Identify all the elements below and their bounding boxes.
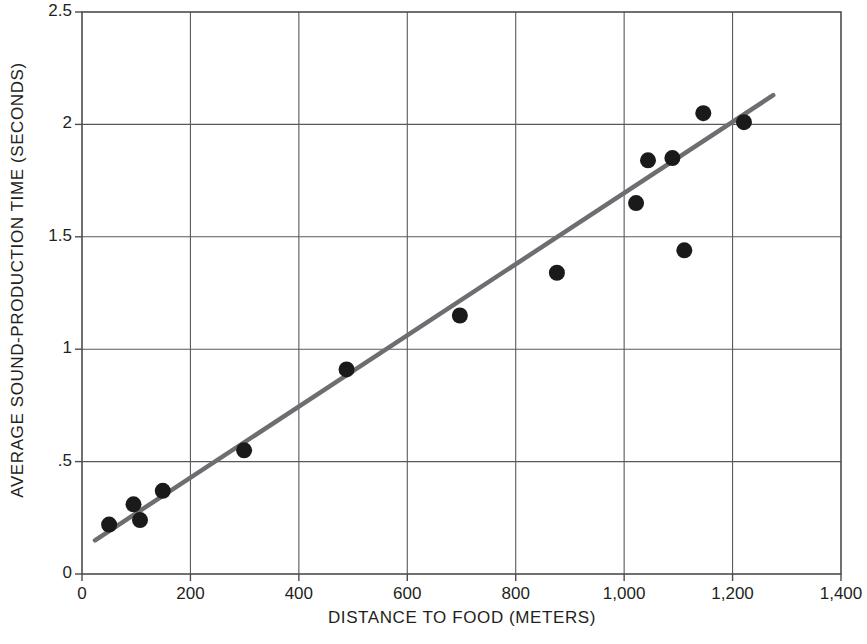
x-tick-label: 200 [150, 584, 230, 604]
data-point [236, 442, 252, 458]
data-point [452, 307, 468, 323]
plot-frame [82, 12, 841, 574]
data-point [676, 242, 692, 258]
data-point [695, 105, 711, 121]
data-point [101, 517, 117, 533]
x-tick-label: 0 [42, 584, 122, 604]
y-tick-label: 2.5 [14, 1, 72, 21]
x-tick-label: 1,000 [584, 584, 664, 604]
x-tick-label: 800 [476, 584, 556, 604]
y-tick-label: 1.5 [14, 226, 72, 246]
y-tick-label: 1 [14, 338, 72, 358]
data-point [339, 361, 355, 377]
data-point [736, 114, 752, 130]
x-tick-label: 1,400 [801, 584, 867, 604]
data-point [126, 496, 142, 512]
y-tick-label: 0 [14, 563, 72, 583]
data-points [101, 105, 752, 532]
x-tick-label: 400 [259, 584, 339, 604]
y-tick-label: 2 [14, 113, 72, 133]
data-point [549, 265, 565, 281]
data-point [640, 152, 656, 168]
data-point [664, 150, 680, 166]
x-axis-title: DISTANCE TO FOOD (METERS) [82, 608, 842, 628]
y-tick-label: .5 [14, 451, 72, 471]
data-point [628, 195, 644, 211]
data-point [132, 512, 148, 528]
x-tick-label: 600 [367, 584, 447, 604]
plot-border [82, 12, 841, 574]
x-tick-label: 1,200 [693, 584, 773, 604]
y-axis-title: AVERAGE SOUND-PRODUCTION TIME (SECONDS) [0, 0, 36, 560]
grid-lines [82, 12, 841, 574]
data-point [155, 483, 171, 499]
